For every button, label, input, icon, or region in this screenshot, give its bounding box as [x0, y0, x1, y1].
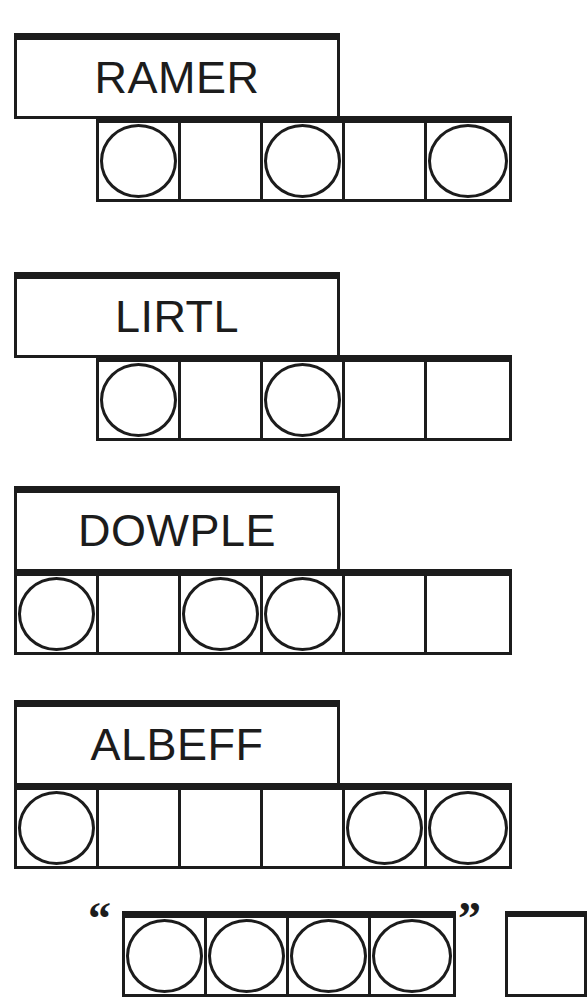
- letter-cell-row: [96, 355, 512, 441]
- letter-cell-circled[interactable]: [263, 362, 345, 438]
- letter-cell[interactable]: [181, 362, 263, 438]
- letter-cell-circled[interactable]: [99, 362, 181, 438]
- answer-cell-row: [122, 911, 456, 997]
- letter-cell[interactable]: [345, 123, 427, 199]
- circle-icon: [126, 919, 203, 993]
- circle-icon: [290, 919, 367, 993]
- letter-cell[interactable]: [263, 790, 345, 866]
- letter-cell[interactable]: [427, 576, 509, 652]
- letter-cell[interactable]: [99, 790, 181, 866]
- word-label: RAMER: [94, 55, 259, 100]
- answer-cell-circled-clipped[interactable]: [505, 911, 587, 997]
- circle-icon: [208, 919, 285, 993]
- letter-cell-circled[interactable]: [99, 123, 181, 199]
- letter-cell[interactable]: [427, 362, 509, 438]
- word-box: RAMER: [14, 33, 340, 119]
- circle-icon: [372, 919, 452, 993]
- circle-icon: [264, 363, 341, 437]
- letter-cell-circled[interactable]: [181, 576, 263, 652]
- word-box: DOWPLE: [14, 486, 340, 572]
- circle-icon: [346, 791, 423, 865]
- letter-cell[interactable]: [345, 576, 427, 652]
- letter-cell-circled[interactable]: [17, 576, 99, 652]
- letter-cell[interactable]: [181, 123, 263, 199]
- letter-cell[interactable]: [99, 576, 181, 652]
- letter-cell-row: [14, 569, 512, 655]
- circle-icon: [18, 577, 95, 651]
- word-label: DOWPLE: [78, 508, 276, 553]
- letter-cell-circled[interactable]: [17, 790, 99, 866]
- letter-cell-circled[interactable]: [427, 123, 509, 199]
- answer-cell-circled[interactable]: [289, 918, 371, 994]
- circle-icon: [100, 124, 177, 198]
- circle-icon: [100, 363, 177, 437]
- circle-icon: [18, 791, 95, 865]
- word-label: ALBEFF: [90, 722, 263, 767]
- letter-cell-circled[interactable]: [263, 123, 345, 199]
- letter-cell-circled[interactable]: [263, 576, 345, 652]
- answer-cell-circled[interactable]: [125, 918, 207, 994]
- open-quote-mark: “: [88, 896, 111, 942]
- circle-icon: [428, 791, 508, 865]
- letter-cell-circled[interactable]: [427, 790, 509, 866]
- word-box: LIRTL: [14, 272, 340, 358]
- letter-cell-circled[interactable]: [345, 790, 427, 866]
- answer-cell-circled[interactable]: [207, 918, 289, 994]
- circle-icon: [264, 577, 341, 651]
- circle-icon: [428, 124, 508, 198]
- word-label: LIRTL: [115, 294, 239, 339]
- answer-cell-circled[interactable]: [371, 918, 453, 994]
- letter-cell-row: [14, 783, 512, 869]
- close-quote-mark: ”: [458, 896, 481, 942]
- letter-cell[interactable]: [345, 362, 427, 438]
- letter-cell-row: [96, 116, 512, 202]
- circle-icon: [182, 577, 259, 651]
- circle-icon: [264, 124, 341, 198]
- word-box: ALBEFF: [14, 700, 340, 786]
- letter-cell[interactable]: [181, 790, 263, 866]
